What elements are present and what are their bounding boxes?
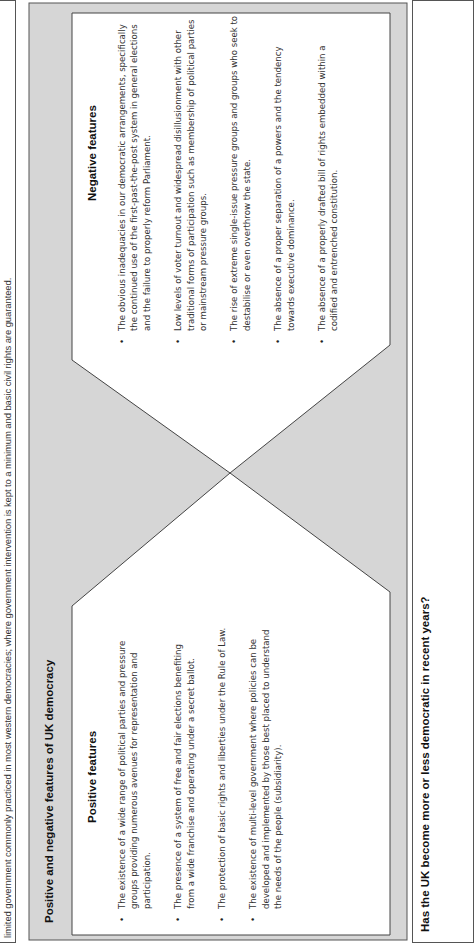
next-section-box: Has the UK become more or less democrati…	[412, 0, 474, 943]
negative-list: The obvious inadequacies in our democrat…	[116, 15, 360, 345]
negative-heading: Negative features	[86, 105, 98, 201]
negative-item: The obvious inadequacies in our democrat…	[116, 15, 153, 345]
feature-box-title: Positive and negative features of UK dem…	[43, 660, 55, 923]
next-section-title: Has the UK become more or less democrati…	[419, 596, 431, 932]
positive-list: The existence of a wide range of politic…	[116, 623, 304, 923]
positive-item: The protection of basic rights and liber…	[216, 623, 228, 923]
negative-item: The rise of extreme single-issue pressur…	[228, 15, 253, 345]
positive-item: The presence of a system of free and fai…	[172, 623, 197, 923]
negative-item: The absence of a properly drafted bill o…	[316, 15, 341, 345]
positive-item: The existence of a wide range of politic…	[116, 623, 153, 923]
negative-item: The absence of a proper separation of a …	[272, 15, 297, 345]
negative-item: Low levels of voter turnout and widespre…	[172, 15, 209, 345]
positive-heading: Positive features	[86, 731, 98, 823]
positive-item: The existence of multi-level government …	[247, 623, 284, 923]
